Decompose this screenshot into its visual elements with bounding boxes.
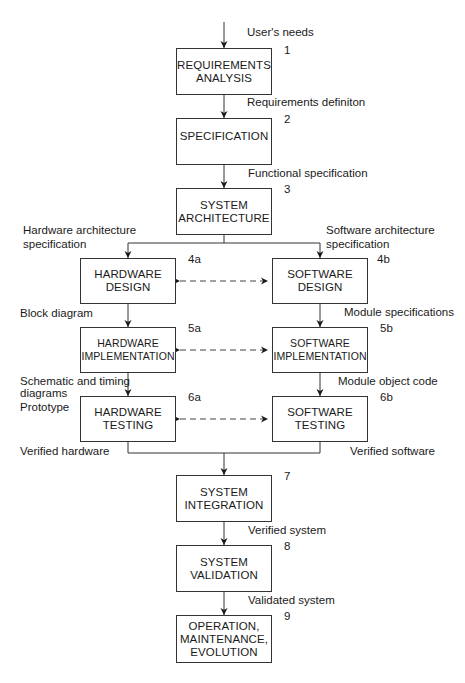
- label-users-needs: User's needs: [247, 25, 314, 39]
- step-number-5b: 5b: [380, 322, 393, 334]
- step-number-5a: 5a: [188, 322, 201, 334]
- box-system-architecture: SYSTEM ARCHITECTURE: [176, 188, 272, 235]
- box-software-implementation: SOFTWARE IMPLEMENTATION: [272, 327, 368, 373]
- label-software-architecture-spec: Software architecture specification: [326, 223, 435, 251]
- box-hardware-testing: HARDWARE TESTING: [80, 396, 176, 442]
- label-verified-hardware: Verified hardware: [20, 444, 110, 458]
- step-number-4b: 4b: [377, 253, 390, 265]
- step-number-2: 2: [284, 113, 290, 125]
- box-operation-maintenance-evolution: OPERATION, MAINTENANCE, EVOLUTION: [176, 615, 272, 663]
- step-number-7: 7: [284, 470, 290, 482]
- step-number-4a: 4a: [188, 253, 201, 265]
- step-number-6b: 6b: [380, 391, 393, 403]
- label-module-object-code: Module object code: [338, 374, 438, 388]
- label-verified-software: Verified software: [350, 444, 435, 458]
- label-verified-system: Verified system: [248, 523, 326, 537]
- label-validated-system: Validated system: [248, 593, 335, 607]
- box-requirements-analysis: REQUIREMENTS ANALYSIS: [176, 48, 272, 95]
- box-software-testing: SOFTWARE TESTING: [272, 396, 368, 442]
- step-number-8: 8: [284, 540, 290, 552]
- box-software-design: SOFTWARE DESIGN: [272, 258, 368, 304]
- box-specification: SPECIFICATION: [176, 118, 272, 165]
- box-hardware-design: HARDWARE DESIGN: [80, 258, 176, 304]
- label-requirements-definition: Requirements definiton: [247, 95, 365, 109]
- step-number-1: 1: [284, 44, 290, 56]
- label-hardware-architecture-spec: Hardware architecture specification: [23, 223, 136, 251]
- step-number-9: 9: [284, 610, 290, 622]
- label-schematic-timing: Schematic and timing diagrams: [20, 375, 130, 399]
- label-module-specifications: Module specifications: [344, 305, 454, 319]
- box-system-integration: SYSTEM INTEGRATION: [176, 475, 272, 522]
- step-number-6a: 6a: [188, 391, 201, 403]
- label-functional-specification: Functional specification: [248, 166, 368, 180]
- label-block-diagram: Block diagram: [20, 306, 93, 320]
- step-number-3: 3: [284, 183, 290, 195]
- label-prototype: Prototype: [20, 400, 69, 414]
- box-hardware-implementation: HARDWARE IMPLEMENTATION: [80, 327, 176, 373]
- box-system-validation: SYSTEM VALIDATION: [176, 545, 272, 592]
